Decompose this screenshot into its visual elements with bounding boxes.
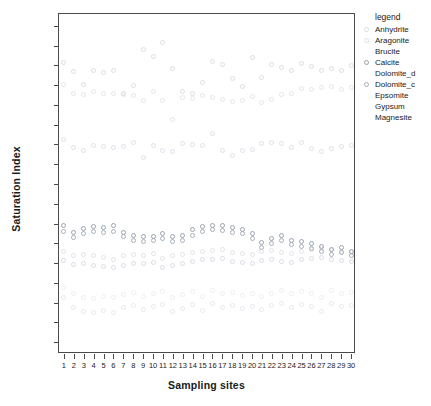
y-axis-tick xyxy=(54,105,59,106)
data-point xyxy=(230,230,235,235)
data-point xyxy=(220,256,225,261)
data-point xyxy=(299,239,304,244)
legend-item[interactable]: Dolomite_c xyxy=(362,79,431,90)
data-point xyxy=(170,263,175,268)
data-point xyxy=(71,230,76,235)
open-circle-icon xyxy=(364,82,369,87)
data-point xyxy=(61,249,66,254)
data-point xyxy=(269,257,274,262)
data-point xyxy=(259,75,264,80)
legend-item[interactable]: Magnesite xyxy=(362,112,431,123)
data-point xyxy=(81,82,86,87)
data-point xyxy=(289,91,294,96)
data-point xyxy=(81,261,86,266)
data-point xyxy=(190,259,195,264)
data-point xyxy=(81,231,86,236)
data-point xyxy=(180,292,185,297)
data-point xyxy=(309,291,314,296)
data-point xyxy=(349,259,354,264)
data-point xyxy=(259,141,264,146)
legend-item[interactable]: Epsomite xyxy=(362,90,431,101)
x-axis-tick xyxy=(173,354,174,359)
data-point xyxy=(240,227,245,232)
data-point xyxy=(230,250,235,255)
data-point xyxy=(309,304,314,309)
data-point xyxy=(319,249,324,254)
data-point xyxy=(111,145,116,150)
legend-item[interactable]: Aragonite xyxy=(362,35,431,46)
data-point xyxy=(200,294,205,299)
x-axis-tick xyxy=(193,354,194,359)
data-point xyxy=(151,260,156,265)
data-point xyxy=(339,144,344,149)
data-point xyxy=(180,141,185,146)
data-point xyxy=(259,258,264,263)
data-point xyxy=(250,147,255,152)
data-point xyxy=(250,94,255,99)
y-axis-tick xyxy=(54,303,59,304)
data-point xyxy=(190,227,195,232)
x-axis-tick xyxy=(292,354,293,359)
legend-item[interactable]: Calcite xyxy=(362,57,431,68)
data-point xyxy=(111,310,116,315)
data-point xyxy=(210,257,215,262)
x-axis-tick xyxy=(351,354,352,359)
legend-item-label: Calcite xyxy=(375,57,399,68)
data-point xyxy=(309,87,314,92)
data-point xyxy=(141,253,146,258)
data-point xyxy=(160,256,165,261)
data-point xyxy=(160,289,165,294)
legend-item[interactable]: Anhydrite xyxy=(362,24,431,35)
data-point xyxy=(299,257,304,262)
y-axis-tick xyxy=(54,144,59,145)
data-point xyxy=(180,89,185,94)
data-point xyxy=(210,288,215,293)
data-point xyxy=(240,293,245,298)
legend-item-label: Brucite xyxy=(375,46,400,57)
data-point xyxy=(190,302,195,307)
data-point xyxy=(279,259,284,264)
legend-marker-slot xyxy=(362,27,375,32)
data-point xyxy=(299,249,304,254)
legend-item[interactable]: Gypsum xyxy=(362,101,431,112)
data-point xyxy=(91,229,96,234)
data-point xyxy=(61,60,66,65)
data-point xyxy=(111,295,116,300)
data-point xyxy=(180,238,185,243)
data-point xyxy=(200,249,205,254)
x-axis-tick-label: 30 xyxy=(344,361,358,370)
data-point xyxy=(160,148,165,153)
y-axis-tick xyxy=(54,125,59,126)
x-axis-tick xyxy=(113,354,114,359)
data-point xyxy=(349,85,354,90)
data-point xyxy=(101,70,106,75)
data-point xyxy=(309,64,314,69)
data-point xyxy=(131,290,136,295)
x-axis-tick xyxy=(123,354,124,359)
data-point xyxy=(230,303,235,308)
data-point xyxy=(309,241,314,246)
x-axis-tick xyxy=(153,354,154,359)
data-point xyxy=(200,224,205,229)
data-point xyxy=(160,40,165,45)
data-point xyxy=(61,295,66,300)
legend-item[interactable]: Dolomite_d xyxy=(362,68,431,79)
y-axis-tick xyxy=(54,65,59,66)
data-point xyxy=(319,255,324,260)
data-point xyxy=(200,308,205,313)
data-point xyxy=(61,223,66,228)
data-point xyxy=(319,295,324,300)
data-point xyxy=(121,263,126,268)
y-axis-tick xyxy=(54,322,59,323)
y-axis-tick xyxy=(54,224,59,225)
data-point xyxy=(309,246,314,251)
x-axis-tick xyxy=(341,354,342,359)
scatter-plot-figure: Saturation Index 4.03.53.02.52.01.51.00.… xyxy=(0,0,431,406)
legend-item-label: Gypsum xyxy=(375,101,405,112)
legend-item[interactable]: Brucite xyxy=(362,46,431,57)
data-point xyxy=(299,140,304,145)
data-point xyxy=(81,92,86,97)
x-axis-tick xyxy=(252,354,253,359)
data-point xyxy=(279,233,284,238)
y-axis-tick xyxy=(54,342,59,343)
